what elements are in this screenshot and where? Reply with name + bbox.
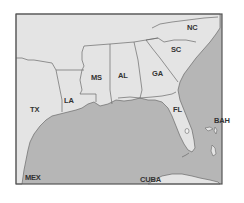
label-cuba: CUBA <box>140 175 162 184</box>
label-georgia: GA <box>152 69 164 78</box>
label-alabama: AL <box>118 71 128 80</box>
label-south-carolina: SC <box>171 45 182 54</box>
label-texas: TX <box>30 105 39 114</box>
label-bahamas: BAH <box>214 116 230 125</box>
label-louisiana: LA <box>64 96 74 105</box>
label-florida: FL <box>173 105 182 114</box>
southeast-us-map: TX LA MS AL GA SC NC FL BAH CUBA MEX <box>0 0 244 203</box>
label-mississippi: MS <box>91 73 102 82</box>
label-north-carolina: NC <box>187 23 198 32</box>
lake-okeechobee <box>185 129 189 134</box>
label-mexico: MEX <box>25 173 41 182</box>
